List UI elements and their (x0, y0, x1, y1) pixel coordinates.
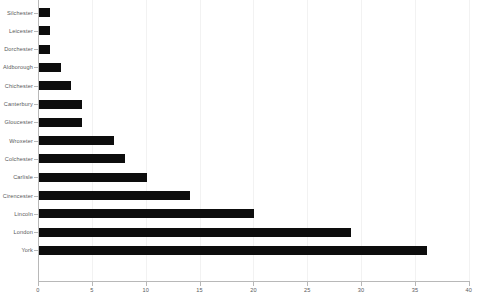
x-axis-tick-label: 10 (131, 287, 161, 293)
y-axis-category-label: London (0, 229, 33, 235)
y-axis-category-label: Wroxeter (0, 138, 33, 144)
y-axis-tick (34, 159, 38, 160)
y-axis-tick (34, 31, 38, 32)
y-axis-tick (34, 13, 38, 14)
y-axis-tick (34, 141, 38, 142)
bar (39, 8, 50, 17)
y-axis-category-label: Gloucester (0, 119, 33, 125)
y-axis-category-label: Dorchester (0, 46, 33, 52)
x-axis-tick (92, 282, 93, 286)
y-axis-category-label: Canterbury (0, 101, 33, 107)
gridline (361, 0, 362, 282)
y-axis-tick (34, 49, 38, 50)
y-axis-category-label: Colchester (0, 156, 33, 162)
y-axis-category-label: Leicester (0, 28, 33, 34)
bar (39, 154, 125, 163)
y-axis-category-label: Chichester (0, 83, 33, 89)
y-axis-tick (34, 104, 38, 105)
bar (39, 173, 147, 182)
x-axis-tick (38, 282, 39, 286)
x-axis-tick-label: 20 (238, 287, 268, 293)
y-axis-tick (34, 250, 38, 251)
y-axis-tick (34, 232, 38, 233)
bar (39, 100, 82, 109)
y-axis-tick (34, 67, 38, 68)
y-axis-tick (34, 86, 38, 87)
x-axis-tick (361, 282, 362, 286)
x-axis-tick (146, 282, 147, 286)
x-axis-tick-label: 40 (454, 287, 477, 293)
x-axis-tick-label: 5 (77, 287, 107, 293)
y-axis-category-label: Lincoln (0, 211, 33, 217)
x-axis-tick-label: 35 (400, 287, 430, 293)
gridline (200, 0, 201, 282)
bar (39, 136, 114, 145)
y-axis-tick (34, 177, 38, 178)
x-axis-tick (200, 282, 201, 286)
gridline (253, 0, 254, 282)
x-axis-tick-label: 0 (23, 287, 53, 293)
bar (39, 63, 61, 72)
gridline (469, 0, 470, 282)
y-axis-tick (34, 196, 38, 197)
bar (39, 191, 190, 200)
x-axis-tick (469, 282, 470, 286)
bar (39, 209, 254, 218)
bar (39, 228, 351, 237)
x-axis-tick-label: 15 (185, 287, 215, 293)
y-axis-category-label: Silchester (0, 10, 33, 16)
bar (39, 246, 427, 255)
gridline (307, 0, 308, 282)
gridline (415, 0, 416, 282)
bar (39, 81, 71, 90)
y-axis-tick (34, 122, 38, 123)
x-axis-tick-label: 25 (292, 287, 322, 293)
x-axis-tick (253, 282, 254, 286)
x-axis-tick (307, 282, 308, 286)
y-axis-category-label: Carlisle (0, 174, 33, 180)
bar (39, 45, 50, 54)
y-axis-category-label: Cirencester (0, 193, 33, 199)
y-axis-tick (34, 214, 38, 215)
gridline (146, 0, 147, 282)
y-axis-category-label: York (0, 247, 33, 253)
x-axis-tick-label: 30 (346, 287, 376, 293)
x-axis-tick (415, 282, 416, 286)
bar (39, 118, 82, 127)
bar (39, 26, 50, 35)
y-axis-category-label: Aldborough (0, 64, 33, 70)
